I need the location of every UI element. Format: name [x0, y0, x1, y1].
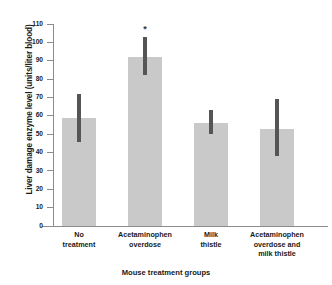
bar-group	[62, 0, 96, 226]
x-axis-category-label-line: Acetaminophen	[232, 230, 322, 240]
error-bar	[209, 110, 212, 134]
bar	[194, 123, 228, 226]
x-axis-category-label: Acetaminophenoverdose andmilk thistle	[232, 230, 322, 259]
bar-chart: Liver damage enzyme level (units/liter b…	[0, 0, 332, 285]
significance-asterisk: *	[141, 25, 149, 34]
x-axis-title: Mouse treatment groups	[0, 268, 332, 277]
error-bar	[275, 99, 278, 156]
x-axis-line	[42, 226, 328, 227]
bar-group	[194, 0, 228, 226]
x-axis-category-label-line: overdose and	[232, 240, 322, 250]
error-bar	[143, 37, 146, 76]
bar	[128, 57, 162, 226]
error-bar	[77, 94, 80, 142]
x-axis-category-label-line: milk thistle	[232, 249, 322, 259]
x-axis-category-labels: NotreatmentAcetaminophenoverdoseMilkthis…	[0, 230, 332, 268]
bars-layer: *	[0, 0, 332, 226]
bar-group: *	[128, 0, 162, 226]
bar-group	[260, 0, 294, 226]
